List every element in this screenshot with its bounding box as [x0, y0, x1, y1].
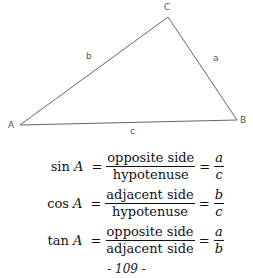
variable-fraction: b c — [214, 187, 224, 220]
page-number: - 109 - — [0, 262, 253, 276]
angle-name: A — [73, 196, 82, 211]
word-fraction: opposite side hypotenuse — [106, 150, 195, 183]
func-name: sin — [51, 159, 70, 174]
equals-sign: = — [195, 159, 214, 174]
side-label-b: b — [86, 52, 92, 61]
vertex-label-a: A — [8, 121, 14, 130]
denominator: c — [214, 167, 223, 183]
word-fraction: adjacent side hypotenuse — [105, 187, 194, 220]
equals-sign: = — [195, 196, 214, 211]
side-label-a: a — [213, 54, 219, 63]
formula-sin: sin A = opposite side hypotenuse = a c — [44, 148, 224, 185]
variable-fraction: a b — [214, 224, 224, 257]
vertex-label-c: C — [164, 3, 170, 12]
numerator: b — [214, 187, 224, 204]
equals-sign: = — [195, 233, 214, 248]
formula-tan: tan A = opposite side adjacent side = a … — [44, 222, 224, 259]
triangle-diagram — [0, 0, 253, 140]
func-name: cos — [47, 196, 69, 211]
denominator: c — [214, 204, 223, 220]
variable-fraction: a c — [214, 150, 224, 183]
trig-formulas: sin A = opposite side hypotenuse = a c c… — [44, 148, 224, 259]
numerator: opposite side — [106, 224, 195, 241]
angle-name: A — [73, 233, 82, 248]
denominator: hypotenuse — [111, 204, 189, 220]
denominator: b — [214, 241, 224, 257]
equals-sign: = — [87, 159, 106, 174]
word-fraction: opposite side adjacent side — [105, 224, 194, 257]
numerator: a — [214, 224, 224, 241]
side-label-c: c — [130, 127, 135, 136]
numerator: adjacent side — [105, 187, 194, 204]
vertex-label-b: B — [240, 116, 246, 125]
func-name: tan — [48, 233, 69, 248]
numerator: opposite side — [106, 150, 195, 167]
equals-sign: = — [86, 196, 105, 211]
equals-sign: = — [86, 233, 105, 248]
triangle-figure: A C B b a c — [0, 0, 253, 140]
formula-cos: cos A = adjacent side hypotenuse = b c — [44, 185, 224, 222]
denominator: hypotenuse — [112, 167, 190, 183]
denominator: adjacent side — [105, 241, 194, 257]
numerator: a — [214, 150, 224, 167]
angle-name: A — [74, 159, 83, 174]
